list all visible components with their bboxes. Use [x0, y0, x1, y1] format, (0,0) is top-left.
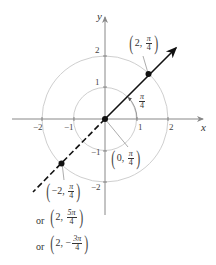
angle-arc	[129, 98, 138, 120]
x-tick-neg1: −1	[64, 123, 74, 132]
y-tick-1: 1	[95, 78, 100, 87]
angle-label: π4	[138, 93, 146, 110]
label-origin: (0, π4)	[110, 148, 141, 168]
x-axis-label: x	[201, 121, 206, 133]
label-alternate-neg3pi4: or (2, −3π4)	[36, 233, 90, 253]
point-2-pi4-dot	[146, 71, 152, 77]
x-tick-1: 1	[138, 123, 143, 132]
x-tick-neg2: −2	[33, 123, 43, 132]
label-point-neg2-pi4: (−2, π4)	[45, 181, 82, 201]
y-axis-label: y	[97, 10, 102, 22]
label-point-2-pi4: (2, π4)	[128, 33, 159, 53]
y-tick-2: 2	[95, 46, 100, 55]
leader-origin	[105, 119, 128, 147]
point-neg2-pi4-dot	[59, 161, 65, 167]
x-tick-2: 2	[169, 123, 174, 132]
label-alternate-5pi4: or (2, 5π4)	[36, 207, 84, 227]
y-tick-neg1: −1	[91, 148, 101, 157]
y-tick-neg2: −2	[91, 183, 101, 192]
origin-dot	[102, 116, 108, 122]
polar-diagram	[0, 0, 216, 265]
